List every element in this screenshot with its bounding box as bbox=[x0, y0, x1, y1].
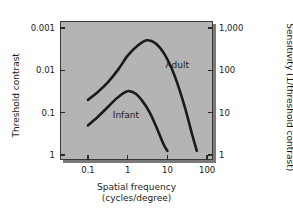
series-curve-infant bbox=[88, 91, 167, 151]
y-axis-tick-label-right: 1,000 bbox=[219, 24, 243, 33]
y-axis-title-left: Threshold contrast bbox=[11, 35, 22, 155]
y-axis-tick-left bbox=[60, 112, 65, 113]
x-axis-tick bbox=[206, 155, 207, 160]
y-axis-tick-right bbox=[208, 27, 213, 28]
series-label-infant: Infant bbox=[113, 110, 139, 120]
series-curve-adult bbox=[88, 40, 197, 151]
y-axis-title-right: Sensitivity (1/threshold contrast) bbox=[285, 12, 293, 182]
y-axis-tick-right bbox=[208, 70, 213, 71]
x-axis-tick bbox=[167, 155, 168, 160]
x-axis-tick bbox=[127, 155, 128, 160]
y-axis-tick-label-left: 0.001 bbox=[11, 24, 55, 33]
y-axis-tick-left bbox=[60, 27, 65, 28]
x-axis-title-line1: Spatial frequency bbox=[60, 182, 213, 193]
x-axis-tick-label: 100 bbox=[199, 166, 215, 175]
x-axis-title-line2: (cycles/degree) bbox=[60, 193, 213, 204]
y-axis-tick-label-right: 100 bbox=[219, 66, 235, 75]
x-axis-tick-label: 1 bbox=[125, 166, 130, 175]
y-axis-tick-label-right: 1 bbox=[219, 151, 224, 160]
y-axis-tick-right bbox=[208, 154, 213, 155]
y-axis-tick-left bbox=[60, 154, 65, 155]
y-axis-tick-right bbox=[208, 112, 213, 113]
x-axis-tick-label: 0.1 bbox=[81, 166, 95, 175]
x-axis-tick bbox=[87, 155, 88, 160]
x-axis-title: Spatial frequency (cycles/degree) bbox=[60, 182, 213, 203]
y-axis-tick-left bbox=[60, 70, 65, 71]
y-axis-tick-label-right: 10 bbox=[219, 108, 230, 117]
series-label-adult: Adult bbox=[166, 60, 189, 70]
contrast-sensitivity-chart: 0.11101000.0011,0000.011000.11011 Adult … bbox=[0, 0, 293, 217]
x-axis-tick-label: 10 bbox=[162, 166, 173, 175]
